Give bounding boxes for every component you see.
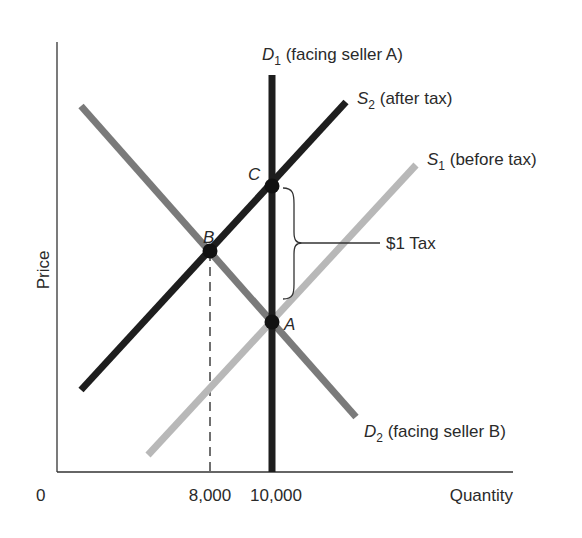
s1-supply-curve	[148, 165, 416, 455]
d1-label: D1 (facing seller A)	[262, 45, 403, 68]
point-c-label: C	[248, 165, 261, 184]
point-b-label: B	[203, 228, 214, 247]
point-a	[265, 315, 280, 330]
s1-label: S1 (before tax)	[427, 150, 537, 173]
tax-label: $1 Tax	[386, 234, 436, 253]
supply-demand-chart: C B A D1 (facing seller A) S2 (after tax…	[0, 0, 582, 538]
d2-label: D2 (facing seller B)	[364, 422, 506, 445]
x-tick-10000: 10,000	[250, 486, 302, 505]
s2-label: S2 (after tax)	[357, 89, 453, 112]
point-a-label: A	[283, 315, 295, 334]
d2-demand-curve	[81, 106, 356, 417]
origin-label: 0	[36, 486, 45, 505]
tax-brace	[283, 188, 302, 299]
point-c	[265, 179, 280, 194]
x-tick-8000: 8,000	[189, 486, 232, 505]
x-axis-label: Quantity	[450, 486, 514, 505]
y-axis-label: Price	[34, 251, 53, 290]
